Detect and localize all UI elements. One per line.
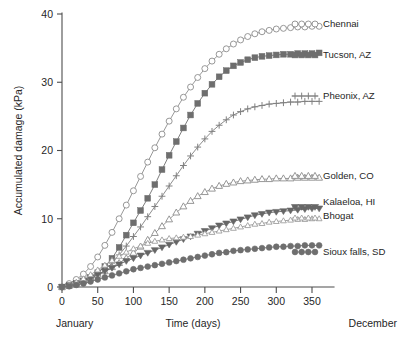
marker-open-circle bbox=[173, 106, 179, 112]
marker-plus bbox=[130, 233, 137, 240]
y-tick-label: 0 bbox=[47, 281, 53, 293]
marker-open-circle bbox=[95, 254, 101, 260]
marker-plus bbox=[166, 183, 173, 190]
marker-filled-square bbox=[173, 139, 179, 145]
x-tick-label: 100 bbox=[125, 295, 143, 307]
marker-plus bbox=[237, 108, 244, 115]
marker-open-circle bbox=[266, 27, 272, 33]
marker-filled-square bbox=[223, 68, 229, 74]
marker-filled-circle bbox=[309, 242, 315, 248]
legend-label-bhogat: Bhogat bbox=[323, 210, 354, 221]
marker-open-triangle-up bbox=[194, 193, 201, 199]
marker-plus bbox=[137, 224, 144, 231]
marker-plus bbox=[230, 112, 237, 119]
marker-plus bbox=[287, 99, 294, 106]
marker-open-triangle-up bbox=[201, 189, 208, 195]
marker-filled-square bbox=[238, 60, 244, 66]
marker-filled-circle bbox=[195, 254, 201, 260]
marker-plus bbox=[266, 101, 273, 108]
marker-plus bbox=[292, 93, 299, 100]
marker-open-triangle-up-small bbox=[116, 253, 122, 258]
marker-filled-circle bbox=[231, 248, 237, 254]
y-tick-label: 10 bbox=[41, 213, 53, 225]
marker-filled-circle bbox=[166, 260, 172, 266]
marker-filled-circle bbox=[316, 242, 322, 248]
legend-label-tucson-az: Tucson, AZ bbox=[323, 49, 371, 60]
marker-filled-circle bbox=[123, 268, 129, 274]
marker-filled-circle bbox=[152, 262, 158, 268]
marker-plus bbox=[173, 172, 180, 179]
marker-filled-triangle-down bbox=[151, 248, 158, 254]
marker-filled-square bbox=[312, 52, 318, 58]
marker-filled-circle bbox=[223, 249, 229, 255]
marker-open-circle bbox=[152, 145, 158, 151]
marker-filled-square bbox=[123, 232, 129, 238]
marker-filled-circle bbox=[281, 244, 287, 250]
marker-filled-square bbox=[292, 52, 298, 58]
legend-label-golden-co: Golden, CO bbox=[323, 170, 374, 181]
marker-filled-triangle-down bbox=[130, 256, 137, 262]
marker-filled-square bbox=[195, 101, 201, 107]
marker-filled-square bbox=[273, 52, 279, 58]
marker-filled-circle bbox=[216, 250, 222, 256]
marker-plus bbox=[159, 193, 166, 200]
marker-plus bbox=[151, 203, 158, 210]
marker-filled-circle bbox=[292, 249, 298, 255]
marker-filled-circle bbox=[299, 249, 305, 255]
marker-plus bbox=[301, 98, 308, 105]
marker-plus bbox=[294, 99, 301, 106]
x-axis-end-label: December bbox=[349, 317, 398, 329]
marker-plus bbox=[273, 100, 280, 107]
marker-filled-triangle-down bbox=[158, 245, 165, 251]
marker-filled-circle bbox=[138, 265, 144, 271]
marker-filled-square bbox=[131, 220, 137, 226]
marker-filled-square bbox=[181, 125, 187, 131]
marker-filled-circle bbox=[131, 266, 137, 272]
marker-filled-circle bbox=[181, 257, 187, 263]
marker-open-circle bbox=[116, 216, 122, 222]
marker-filled-circle bbox=[252, 246, 258, 252]
marker-open-circle bbox=[166, 118, 172, 124]
marker-filled-circle bbox=[188, 255, 194, 261]
marker-filled-circle bbox=[59, 284, 65, 290]
marker-plus bbox=[298, 93, 305, 100]
marker-filled-circle bbox=[81, 281, 87, 287]
marker-filled-circle bbox=[302, 242, 308, 248]
marker-plus bbox=[144, 213, 151, 220]
marker-filled-square bbox=[252, 55, 258, 61]
marker-plus bbox=[259, 102, 266, 109]
y-tick-label: 30 bbox=[41, 76, 53, 88]
marker-plus bbox=[305, 93, 312, 100]
marker-filled-circle bbox=[173, 258, 179, 264]
marker-open-circle bbox=[102, 242, 108, 248]
marker-open-triangle-up bbox=[180, 203, 187, 209]
marker-open-circle bbox=[216, 51, 222, 57]
marker-filled-circle bbox=[102, 275, 108, 281]
marker-open-circle bbox=[159, 131, 165, 137]
marker-open-circle bbox=[123, 202, 129, 208]
marker-filled-square bbox=[305, 52, 311, 58]
marker-filled-square bbox=[216, 74, 222, 80]
marker-filled-circle bbox=[109, 272, 115, 278]
marker-filled-square bbox=[138, 208, 144, 214]
x-axis-title: Time (days) bbox=[165, 317, 220, 329]
x-tick-label: 350 bbox=[303, 295, 321, 307]
marker-filled-square bbox=[299, 52, 305, 58]
x-tick-label: 250 bbox=[232, 295, 250, 307]
marker-plus bbox=[180, 162, 187, 169]
marker-filled-circle bbox=[245, 247, 251, 253]
marker-filled-circle bbox=[238, 247, 244, 253]
marker-filled-circle bbox=[73, 282, 79, 288]
marker-open-circle bbox=[195, 74, 201, 80]
marker-open-triangle-up bbox=[187, 197, 194, 203]
marker-open-triangle-up-small bbox=[305, 215, 311, 220]
x-tick-label: 50 bbox=[92, 295, 104, 307]
marker-open-circle bbox=[180, 94, 186, 100]
marker-open-circle bbox=[305, 21, 311, 27]
marker-open-triangle-up-small bbox=[95, 267, 101, 272]
marker-open-triangle-up-small bbox=[88, 272, 94, 277]
marker-filled-square bbox=[259, 53, 265, 59]
marker-open-circle bbox=[299, 21, 305, 27]
marker-open-circle bbox=[252, 31, 258, 37]
marker-filled-circle bbox=[266, 245, 272, 251]
